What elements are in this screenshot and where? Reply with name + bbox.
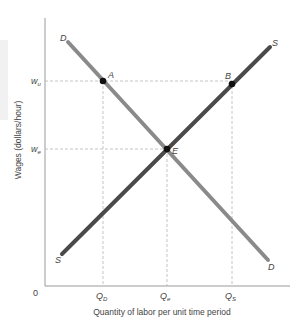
labor-market-chart: A B E D D S S wu we QD Qe QS 0 Quantity …: [0, 0, 297, 326]
point-b: [229, 81, 236, 88]
x-axis-title: Quantity of labor per unit time period: [93, 307, 231, 317]
supply-label-top: S: [272, 38, 278, 48]
point-e: [164, 146, 171, 153]
page-edge-shadow: [0, 40, 8, 120]
demand-label-top: D: [60, 33, 67, 43]
point-a: [100, 78, 107, 85]
point-e-label: E: [172, 146, 179, 156]
point-a-label: A: [107, 70, 114, 80]
y-tick-we: we: [31, 144, 42, 155]
demand-label-bottom: D: [268, 262, 275, 272]
x-tick-qe: Qe: [160, 291, 171, 302]
x-tick-qd: QD: [96, 291, 108, 302]
x-tick-qs: QS: [225, 291, 236, 302]
origin-label: 0: [33, 288, 38, 298]
point-b-label: B: [225, 71, 231, 81]
y-axis-title: Wages (dollars/hour): [13, 101, 23, 180]
supply-label-bottom: S: [55, 255, 61, 265]
y-tick-wu: wu: [31, 76, 42, 87]
